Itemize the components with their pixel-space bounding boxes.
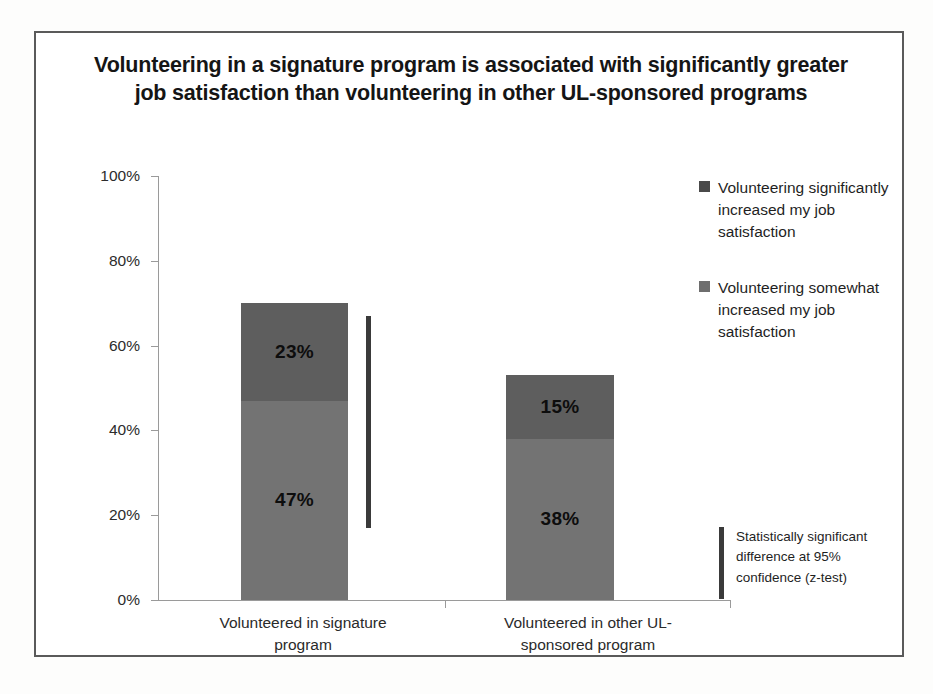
- significance-footnote-line-1: Statistically significant: [736, 529, 867, 544]
- page-background: Volunteering in a signature program is a…: [0, 0, 933, 694]
- chart-title: Volunteering in a signature program is a…: [56, 51, 886, 108]
- significance-footnote: Statistically significant difference at …: [719, 527, 919, 599]
- y-tick-label-0: 0%: [118, 591, 140, 609]
- legend-label-somewhat-line-3: satisfaction: [718, 323, 796, 340]
- x-category-2-line-2: sponsored program: [521, 636, 655, 653]
- x-category-2-line-1: Volunteered in other UL-: [504, 614, 672, 631]
- plot-area: 100% 80% 60% 40% 20% 0% 23%: [158, 176, 731, 600]
- y-tick-100: 100%: [151, 176, 158, 177]
- x-category-label-1: Volunteered in signature program: [163, 612, 443, 657]
- y-tick-60: 60%: [151, 346, 158, 347]
- bar1-segment-significantly[interactable]: 23%: [241, 303, 348, 401]
- chart-frame: Volunteering in a signature program is a…: [34, 31, 904, 657]
- significance-footnote-line-2: difference at 95%: [736, 549, 841, 564]
- chart-title-line-2: job satisfaction than volunteering in ot…: [56, 79, 886, 107]
- y-tick-label-40: 40%: [109, 421, 140, 439]
- chart-legend: Volunteering significantly increased my …: [699, 177, 904, 377]
- significance-marker-bar: [366, 316, 371, 528]
- y-axis-line: [158, 176, 159, 600]
- legend-label-significantly: Volunteering significantly increased my …: [718, 177, 889, 243]
- bar2-segment-somewhat[interactable]: 38%: [506, 439, 614, 600]
- bar1-segment-somewhat[interactable]: 47%: [241, 401, 348, 600]
- legend-label-somewhat: Volunteering somewhat increased my job s…: [718, 277, 879, 343]
- legend-label-somewhat-line-2: increased my job: [718, 301, 835, 318]
- y-tick-20: 20%: [151, 515, 158, 516]
- bar1-label-significantly: 23%: [275, 341, 314, 363]
- bar2-label-significantly: 15%: [541, 396, 580, 418]
- legend-label-significantly-line-2: increased my job: [718, 201, 835, 218]
- legend-item-somewhat[interactable]: Volunteering somewhat increased my job s…: [699, 277, 904, 343]
- y-tick-80: 80%: [151, 261, 158, 262]
- x-category-label-2: Volunteered in other UL- sponsored progr…: [448, 612, 728, 657]
- legend-label-significantly-line-3: satisfaction: [718, 223, 796, 240]
- bar-volunteered-in-signature-program[interactable]: 23% 47%: [241, 303, 348, 600]
- x-tick-mid: [445, 600, 446, 608]
- legend-swatch-significantly-icon: [699, 181, 710, 192]
- y-tick-label-100: 100%: [100, 167, 140, 185]
- bar2-label-somewhat: 38%: [541, 508, 580, 530]
- significance-footnote-bar-icon: [719, 527, 724, 599]
- bar2-segment-significantly[interactable]: 15%: [506, 375, 614, 439]
- chart-title-line-1: Volunteering in a signature program is a…: [56, 51, 886, 79]
- significance-footnote-text: Statistically significant difference at …: [736, 527, 867, 588]
- legend-label-somewhat-line-1: Volunteering somewhat: [718, 279, 879, 296]
- x-category-1-line-2: program: [274, 636, 332, 653]
- bar1-label-somewhat: 47%: [275, 489, 314, 511]
- y-tick-label-20: 20%: [109, 506, 140, 524]
- legend-label-significantly-line-1: Volunteering significantly: [718, 179, 889, 196]
- legend-swatch-somewhat-icon: [699, 281, 710, 292]
- y-tick-label-80: 80%: [109, 252, 140, 270]
- significance-footnote-line-3: confidence (z-test): [736, 570, 847, 585]
- x-category-1-line-1: Volunteered in signature: [219, 614, 386, 631]
- legend-item-significantly[interactable]: Volunteering significantly increased my …: [699, 177, 904, 243]
- y-tick-0: 0%: [151, 600, 158, 601]
- x-tick-end: [730, 600, 731, 608]
- y-tick-label-60: 60%: [109, 337, 140, 355]
- y-tick-40: 40%: [151, 430, 158, 431]
- bar-volunteered-in-other-ul-sponsored-program[interactable]: 15% 38%: [506, 375, 614, 600]
